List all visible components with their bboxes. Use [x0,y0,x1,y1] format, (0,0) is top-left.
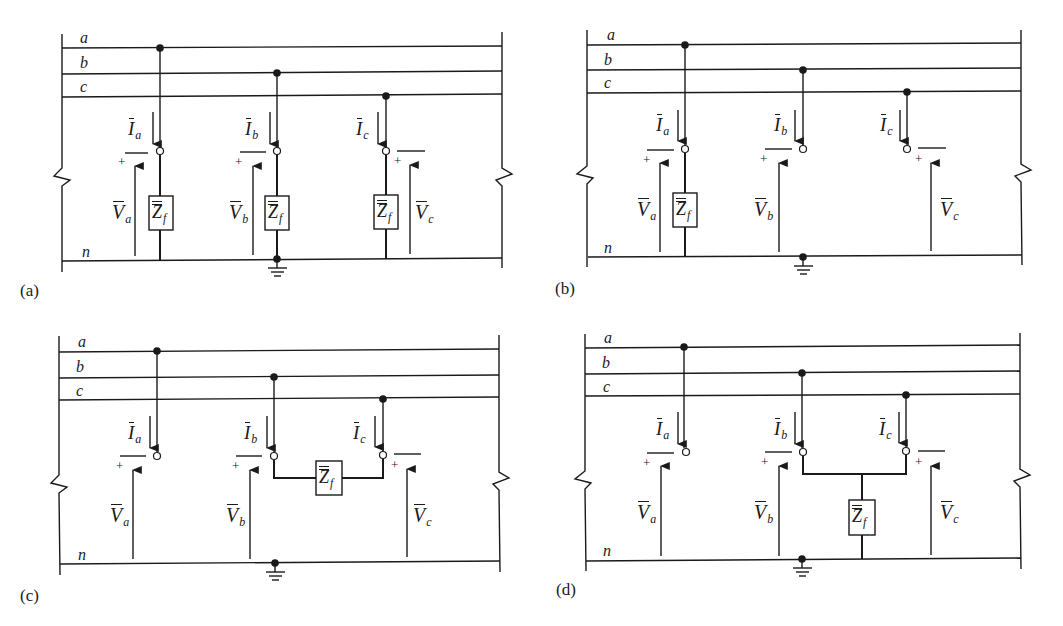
terminal-a [683,449,690,456]
bus-label-n: n [603,542,611,559]
voltage-label-c: Vc [940,502,959,525]
current-label-b: Ib [245,119,258,141]
impedance-label: Zf [852,507,866,528]
bus-label-c: c [76,382,83,399]
plus-sign: + [761,454,768,469]
panel-d: a b c n + + + [575,329,1030,576]
terminal-c [904,146,911,153]
bus-b [59,375,499,378]
terminal-c [383,148,390,155]
bus-b [62,71,502,74]
terminal-a [157,148,164,155]
panel-b: a b c n + + + [577,26,1031,274]
voltage-label-b: Vb [226,505,245,528]
bus-label-a: a [80,29,88,46]
plus-sign: + [915,454,922,469]
terminal-b [271,453,278,460]
bus-label-b: b [602,354,610,371]
bus-c [62,94,502,97]
bus-label-b: b [604,51,612,68]
panel-c: a b c n + + + [51,333,509,580]
right-border [493,335,509,572]
current-label-a: Ia [656,419,669,441]
lead [274,460,316,478]
current-label-c: Ic [879,419,892,441]
voltage-label-c: Vc [940,199,959,222]
fault-diagram-canvas: a b c n + + + [0,0,1063,626]
terminal-c [903,448,910,455]
bus-label-a: a [78,333,86,350]
bus-label-n: n [78,546,86,563]
bus-a [585,345,1020,348]
panel-caption-d: (d) [556,580,576,600]
bus-label-c: c [603,378,610,395]
left-border [577,30,593,267]
voltage-label-b: Vb [754,502,773,525]
current-label-a: Ia [656,115,669,137]
bus-a [587,43,1021,45]
lead [803,455,906,474]
bus-a [59,349,499,352]
voltage-label-a: Va [637,199,656,222]
plus-sign: + [116,458,123,473]
terminal-a [154,453,161,460]
plus-sign: + [760,151,767,166]
impedance-label: Zf [319,468,333,489]
bus-n [60,561,500,564]
ground-icon [793,559,812,576]
plus-sign: + [118,154,125,169]
plus-sign: + [643,455,650,470]
bus-c [587,91,1021,93]
bus-label-a: a [604,329,612,346]
bus-a [62,46,502,48]
current-label-b: Ib [774,115,787,137]
bus-label-n: n [82,243,90,260]
bus-c [59,397,499,400]
right-border [1015,30,1031,265]
current-label-a: Ia [128,119,141,141]
plus-sign: + [232,458,239,473]
lead [342,459,383,478]
plus-sign: + [391,457,398,472]
bus-n [62,258,502,261]
bus-label-b: b [76,358,84,375]
left-border [54,34,70,272]
current-label-b: Ib [244,423,257,445]
current-label-c: Ic [880,115,893,137]
impedance-label: Zf [268,203,282,224]
plus-sign: + [394,153,401,168]
current-label-a: Ia [128,423,141,445]
impedance-label: Zf [676,200,690,221]
panel-a: a b c n + + + [54,29,512,276]
impedance-label: Zf [377,202,391,223]
terminal-b [274,148,281,155]
terminal-b [800,146,807,153]
terminal-a [682,146,689,153]
panel-caption-a: (a) [20,281,39,301]
plus-sign: + [643,152,650,167]
ground-icon [266,563,285,580]
plus-sign: + [235,154,242,169]
voltage-label-b: Vb [229,202,248,225]
left-border [575,334,591,571]
panel-caption-b: (b) [555,279,575,299]
voltage-label-c: Vc [415,202,434,225]
panel-caption-c: (c) [20,586,39,606]
voltage-label-c: Vc [413,505,432,528]
current-label-c: Ic [356,119,369,141]
current-label-b: Ib [774,419,787,441]
impedance-label: Zf [152,203,166,224]
bus-label-c: c [80,78,87,95]
current-label-c: Ic [353,423,366,445]
voltage-label-b: Vb [754,199,773,222]
right-border [1014,333,1030,569]
right-border [496,32,512,268]
voltage-label-a: Va [110,505,129,528]
terminal-c [380,452,387,459]
bus-label-n: n [604,239,612,256]
bus-label-c: c [604,74,611,91]
terminal-b [800,449,807,456]
voltage-label-a: Va [637,502,656,525]
ground-icon [268,259,287,276]
bus-label-a: a [607,26,615,43]
